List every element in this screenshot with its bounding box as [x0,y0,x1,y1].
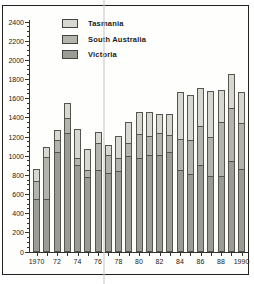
x-tick-label: 84 [169,258,191,266]
bar-1981 [146,112,153,252]
y-tick-label: 1400 [0,114,24,121]
x-tick [47,253,48,256]
y-tick [27,228,29,229]
y-tick [25,22,29,23]
y-tick [27,218,29,219]
y-tick-label: 0 [0,249,24,256]
south-australia-swatch [62,35,78,44]
segment-south-australia [43,158,50,200]
x-tick [211,253,212,256]
bar-1988 [218,90,225,252]
y-tick [27,113,29,114]
segment-south-australia [156,134,163,156]
segment-victoria [43,200,50,252]
y-tick [27,165,29,166]
segment-tasmania [84,149,91,170]
y-tick [25,98,29,99]
segment-south-australia [207,138,214,177]
y-tick [25,117,29,118]
segment-south-australia [228,109,235,163]
segment-south-australia [166,136,173,153]
segment-tasmania [228,74,235,109]
y-tick [27,141,29,142]
bar-1970 [33,169,40,252]
segment-tasmania [43,147,50,158]
segment-tasmania [238,92,245,124]
x-tick [201,253,202,256]
segment-tasmania [95,132,102,144]
y-tick [27,89,29,90]
x-tick [139,253,140,256]
x-tick [88,253,89,256]
bar-1971 [43,147,50,252]
bar-1985 [187,95,194,252]
segment-south-australia [218,123,225,177]
bar-1974 [74,129,81,252]
y-tick [27,170,29,171]
segment-victoria [64,134,71,252]
y-tick [27,69,29,70]
y-tick [27,84,29,85]
bar-1972 [54,130,61,252]
y-tick [25,252,29,253]
y-tick [27,74,29,75]
segment-tasmania [177,92,184,139]
segment-tasmania [33,169,40,182]
y-tick [27,199,29,200]
x-tick [180,253,181,256]
x-tick [231,253,232,256]
y-tick-label: 2000 [0,57,24,64]
y-tick-label: 1800 [0,76,24,83]
y-tick [25,60,29,61]
bar-1987 [207,91,214,252]
segment-tasmania [146,112,153,136]
segment-south-australia [105,156,112,175]
segment-victoria [197,166,204,252]
bar-1984 [177,92,184,252]
y-tick [27,208,29,209]
x-tick-label: 80 [128,258,150,266]
segment-victoria [125,157,132,252]
segment-victoria [238,170,245,252]
segment-south-australia [177,140,184,171]
segment-victoria [105,174,112,252]
tasmania-swatch [62,19,78,28]
x-tick [98,253,99,256]
x-tick-label: 1990 [231,258,253,266]
scan-line-artifact [103,0,105,284]
x-tick [78,253,79,256]
stacked-bar-chart-figure: 0200400600800100012001400160018002000220… [0,0,254,284]
segment-victoria [33,200,40,252]
y-tick [27,127,29,128]
y-tick [27,223,29,224]
bar-1982 [156,114,163,252]
bar-1976 [95,132,102,252]
segment-south-australia [54,141,61,153]
segment-south-australia [33,182,40,200]
y-tick [27,50,29,51]
x-tick [37,253,38,256]
y-tick-label: 600 [0,191,24,198]
segment-tasmania [54,130,61,141]
bar-1978 [115,136,122,252]
x-tick [67,253,68,256]
segment-south-australia [136,135,143,159]
x-tick-label: 88 [210,258,232,266]
segment-tasmania [136,112,143,135]
y-tick-label: 1000 [0,153,24,160]
y-axis [29,20,30,253]
bar-1977 [105,145,112,252]
y-tick [27,55,29,56]
segment-south-australia [125,144,132,157]
x-tick [57,253,58,256]
x-tick [129,253,130,256]
segment-south-australia [187,141,194,176]
segment-tasmania [74,129,81,158]
bar-1973 [64,103,71,252]
y-tick [25,213,29,214]
segment-tasmania [156,114,163,134]
y-tick [27,31,29,32]
segment-tasmania [64,103,71,118]
segment-south-australia [197,127,204,166]
segment-tasmania [125,122,132,144]
